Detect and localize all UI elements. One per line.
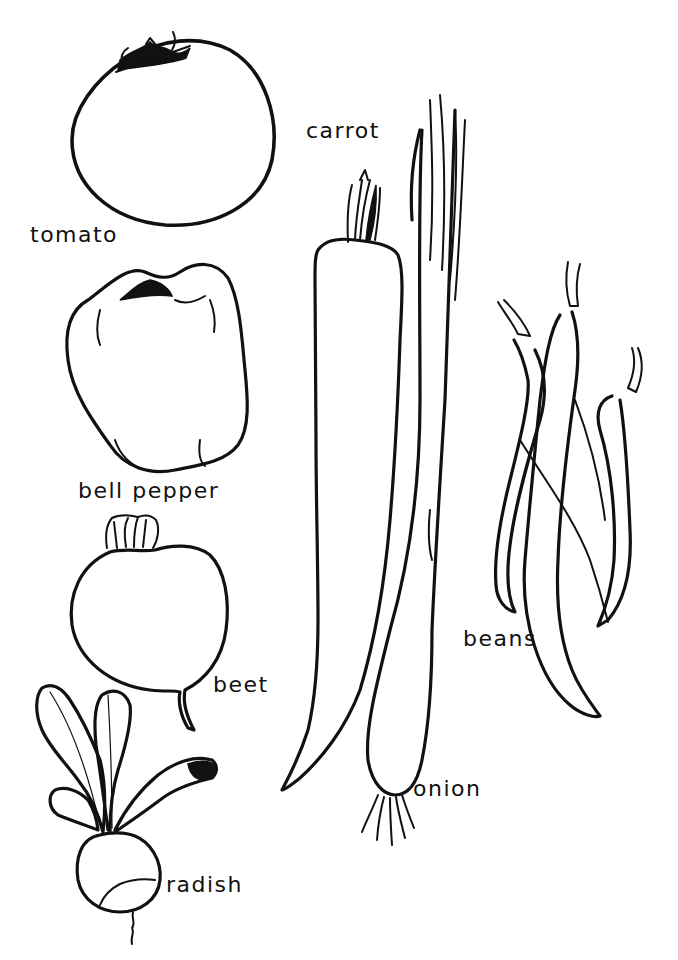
carrot-drawing — [282, 170, 402, 790]
label-tomato: tomato — [30, 222, 118, 247]
bell-pepper-drawing — [67, 264, 247, 471]
label-bell-pepper: bell pepper — [78, 478, 219, 503]
onion-drawing — [362, 95, 465, 845]
label-carrot: carrot — [306, 118, 380, 143]
tomato-drawing — [72, 32, 274, 225]
label-beans: beans — [463, 626, 537, 651]
coloring-page: tomato bell pepper beet radish carrot on… — [0, 0, 678, 960]
beet-drawing — [71, 515, 227, 730]
label-radish: radish — [166, 872, 243, 897]
label-beet: beet — [213, 672, 269, 697]
label-onion: onion — [413, 776, 481, 801]
